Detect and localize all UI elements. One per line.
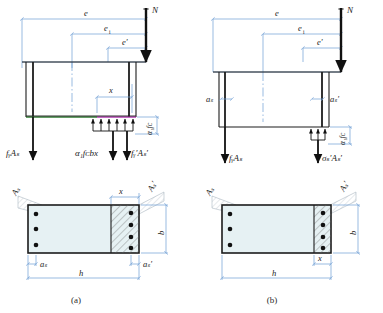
panel-a-force-label-right: fᵧ′Aₛ′ (131, 148, 149, 158)
panel-b-section-As-label: Aₛ (203, 184, 217, 198)
panel-b-member-elevation (213, 72, 341, 127)
panel-a-dim-e-label: e (84, 8, 88, 18)
panel-b-rebar (321, 223, 326, 228)
panel-b-force-label-right: σₛ′Aₛ′ (322, 153, 343, 163)
panel-b-section-dim-x (314, 255, 331, 280)
panel-a-dim-e-prime-label: e' (122, 37, 128, 47)
panel-a-rebar (34, 212, 39, 217)
panel-b-dim-e-label: e (275, 8, 279, 18)
panel-a-rebar (129, 223, 134, 228)
panel-a-section-dim-b (141, 205, 168, 253)
panel-b-section-dim-h (222, 255, 331, 280)
panel-b-dim-as-prime-label: aₛ′ (330, 94, 339, 104)
panel-b-rebar (321, 246, 326, 251)
panel-b: e e i e' N aₛ aₛ′ (203, 5, 360, 280)
panel-a-section-as-prime-label: aₛ′ (143, 259, 152, 269)
svg-text:i: i (303, 29, 305, 35)
panel-a-rebar (129, 235, 134, 240)
caption-b: (b) (267, 295, 278, 305)
panel-b-rebar (228, 212, 233, 217)
panel-a-section-As-prime-label: Aₛ′ (145, 179, 159, 194)
panel-b-force-label-left: fᵧAₛ (229, 153, 243, 163)
panel-a-section-h-label: h (79, 268, 83, 278)
panel-a-rebar (129, 246, 134, 251)
panel-b-dim-e-prime-label: e' (317, 37, 323, 47)
panel-b-rebar (228, 243, 233, 248)
panel-b-rebar (228, 227, 233, 232)
panel-b-section-x-label: x (317, 253, 322, 263)
panel-a-cross-section: x b aₛ aₛ′ h Aₛ Aₛ′ (9, 179, 168, 280)
diagram-canvas: e e i e' N (0, 0, 383, 313)
panel-a-dim-x-label: x (108, 85, 113, 95)
panel-a-section-as-label: aₛ (40, 259, 48, 269)
panel-a-section-As-label: Aₛ (9, 184, 23, 198)
panel-a-rebar (34, 227, 39, 232)
panel-b-stress-block-label: α₁fᴄ (338, 132, 347, 145)
panel-a-compression-zone (111, 205, 139, 253)
svg-text:e: e (104, 23, 108, 33)
panel-b-section-As-prime-label: Aₛ′ (337, 179, 351, 194)
panel-a: e e i e' N (6, 5, 168, 280)
panel-b-cross-section: b x h Aₛ Aₛ′ (203, 179, 360, 280)
svg-text:e: e (298, 23, 302, 33)
panel-b-leader-right (330, 192, 356, 214)
panel-a-stress-block-label: α₁fᴄ (145, 122, 154, 135)
panel-a-stress-block (93, 119, 133, 131)
panel-a-section-x-label: x (118, 186, 123, 196)
panel-a-member-elevation (22, 62, 146, 117)
panel-b-rebar (321, 235, 326, 240)
panel-b-section-dim-b (333, 205, 360, 253)
panel-b-stress-block (311, 129, 325, 140)
panel-a-force-label-mid: α₁fᴄbx (75, 148, 98, 158)
panel-a-leader-right (139, 192, 164, 214)
panel-a-dim-ei-label: e i (104, 23, 111, 35)
panel-a-dimensions-top (22, 19, 146, 112)
panel-a-section-dim-x (111, 193, 139, 204)
panel-b-section-h-label: h (272, 268, 276, 278)
figure-eccentric-compression: e e i e' N (0, 0, 383, 313)
panel-b-label-N: N (346, 5, 354, 15)
panel-a-label-N: N (151, 5, 159, 15)
panel-b-section-b-label: b (348, 231, 358, 235)
panel-b-force-N (338, 8, 343, 72)
panel-a-force-label-left: fᵧAₛ (6, 148, 20, 158)
panel-a-force-N (143, 8, 148, 62)
caption-a: (a) (71, 295, 81, 305)
panel-a-section-b-label: b (156, 231, 166, 235)
panel-a-rebar (34, 243, 39, 248)
panel-a-dim-x (97, 84, 132, 113)
panel-a-rebar (129, 211, 134, 216)
panel-b-dim-as-label: aₛ (206, 94, 214, 104)
panel-b-dim-ei-label: e i (298, 23, 305, 35)
panel-b-rebar (321, 211, 326, 216)
svg-text:i: i (109, 29, 111, 35)
